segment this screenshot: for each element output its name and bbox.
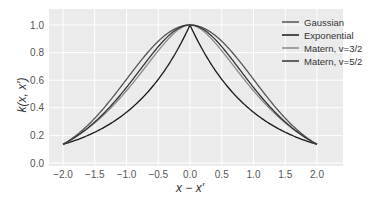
legend-label: Gaussian: [304, 17, 344, 28]
x-tick-label: 2.0: [310, 169, 324, 180]
plot-background: [49, 9, 343, 166]
y-axis-ticks: 0.00.20.40.60.81.0: [30, 20, 44, 169]
y-tick-label: 0.6: [30, 75, 44, 86]
x-axis-ticks: −2.0−1.5−1.0−0.50.00.51.01.52.0: [53, 169, 324, 180]
x-tick-label: −1.0: [117, 169, 137, 180]
y-tick-label: 0.4: [30, 102, 44, 113]
x-tick-label: 0.5: [215, 169, 229, 180]
y-tick-label: 0.8: [30, 47, 44, 58]
x-axis-label: x − x′: [175, 181, 205, 195]
x-tick-label: −1.5: [85, 169, 105, 180]
y-tick-label: 1.0: [30, 20, 44, 31]
x-tick-label: −0.5: [148, 169, 168, 180]
legend-label: Matern, v=3/2: [304, 43, 362, 54]
y-axis-label: k(x, x′): [15, 78, 29, 113]
legend-label: Exponential: [304, 30, 354, 41]
y-tick-label: 0.2: [30, 130, 44, 141]
kernel-chart: −2.0−1.5−1.0−0.50.00.51.01.52.0 0.00.20.…: [0, 0, 380, 200]
x-tick-label: −2.0: [53, 169, 73, 180]
x-tick-label: 1.0: [247, 169, 261, 180]
x-tick-label: 0.0: [183, 169, 197, 180]
x-tick-label: 1.5: [278, 169, 292, 180]
y-tick-label: 0.0: [30, 158, 44, 169]
legend-label: Matern, v=5/2: [304, 56, 362, 67]
